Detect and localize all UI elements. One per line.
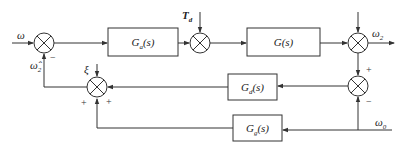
s4-plus-sign: +	[366, 65, 372, 75]
summing-junction-3	[348, 33, 368, 53]
s5-plus-right-sign: +	[106, 97, 112, 107]
summing-junction-5	[87, 77, 107, 97]
summing-junction-2	[190, 33, 210, 53]
disturbance-torque-label: Td	[182, 10, 192, 24]
block-g-label: G(s)	[247, 37, 320, 48]
block-diagram-canvas	[0, 0, 403, 152]
block-gg-label: Gg(s)	[233, 123, 282, 137]
block-ga-label: Ga(s)	[108, 37, 178, 51]
output-omega2-label: ω2	[372, 28, 383, 42]
s5-plus-left-sign: +	[81, 98, 87, 108]
s4-minus-sign: −	[366, 97, 372, 107]
input-omega-label: ω	[17, 30, 25, 41]
summing-junction-1	[34, 33, 54, 53]
base-omega0-label: ω0	[375, 117, 386, 131]
summing-junction-4	[348, 76, 368, 96]
s1-minus-sign: −	[50, 53, 56, 63]
estimate-omega2-label: ω̂2	[30, 60, 41, 74]
block-gd-label: Gd(s)	[228, 82, 277, 96]
noise-xi-label: ξ	[84, 64, 89, 75]
